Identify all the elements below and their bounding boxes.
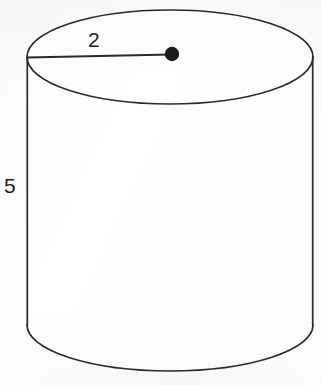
cylinder-diagram: 2 5: [0, 0, 321, 385]
height-dimension-label: 5: [4, 175, 16, 196]
center-point-dot: [165, 47, 179, 61]
radius-dimension-label: 2: [88, 29, 100, 50]
cylinder-drawing: [0, 0, 321, 385]
